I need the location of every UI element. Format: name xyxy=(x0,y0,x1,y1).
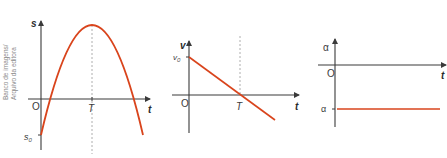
v-t-axis-label: t xyxy=(295,101,299,112)
s-t-axis-label: t xyxy=(148,104,152,115)
a-origin-label: O xyxy=(327,68,335,79)
s-T-label: T xyxy=(88,103,95,114)
s0-label: s0 xyxy=(24,132,33,143)
velocity-line xyxy=(189,57,275,120)
s-origin-label: O xyxy=(32,101,40,112)
velocity-time-graph: v v0 O T t xyxy=(172,36,299,133)
a-axis-label: α xyxy=(323,42,329,53)
v0-label: v0 xyxy=(173,53,181,63)
s-axis-label: s xyxy=(31,18,37,29)
kinematics-graphs: s O T t s0 v v0 O T t α O t α xyxy=(0,0,447,158)
alpha-value-label: α xyxy=(321,104,326,114)
acceleration-time-graph: α O t α xyxy=(318,39,446,127)
position-time-graph: s O T t s0 xyxy=(24,18,152,154)
v-axis-label: v xyxy=(180,40,187,51)
a-t-axis-label: t xyxy=(441,70,445,81)
v-T-label: T xyxy=(236,101,243,112)
v-origin-label: O xyxy=(181,98,189,109)
